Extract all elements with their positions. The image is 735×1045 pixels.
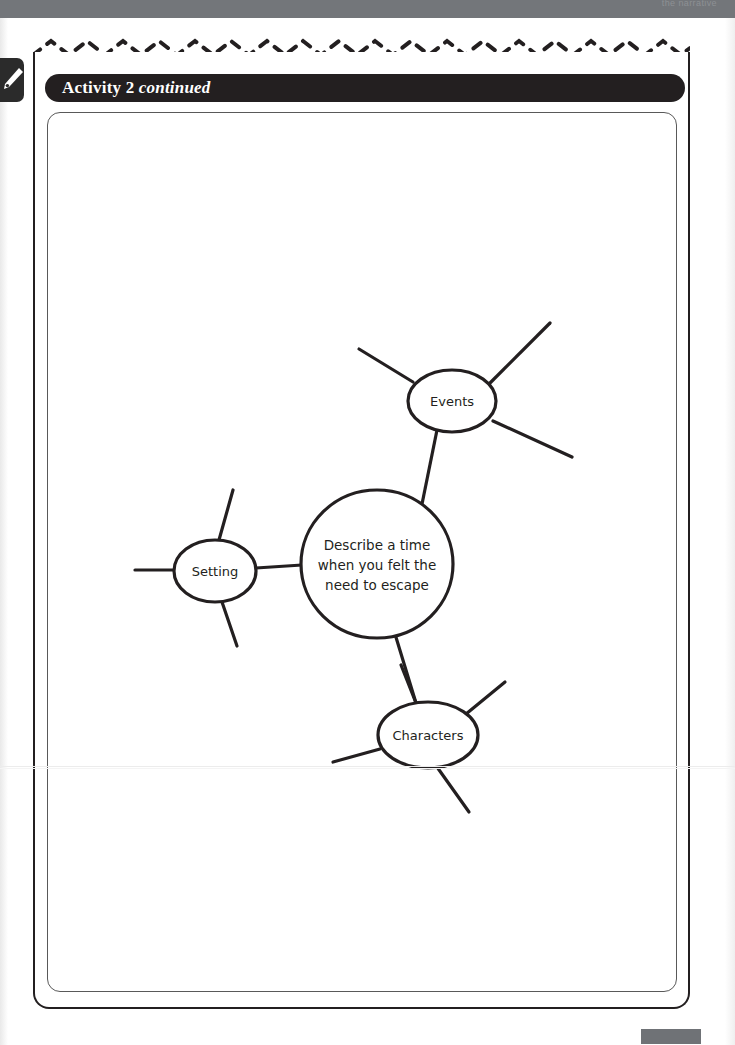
page-footer-marker (641, 1029, 701, 1044)
characters-node-label: Characters (393, 728, 464, 743)
mind-map-diagram: Describe a time when you felt the need t… (47, 112, 677, 992)
activity-title: Activity 2 continued (45, 78, 211, 98)
branch-characters-1 (401, 665, 416, 703)
mind-map-node-characters[interactable]: Characters (378, 702, 478, 768)
page-edge-shadow-left (0, 18, 8, 1045)
branch-events-1 (359, 349, 413, 382)
branch-setting-1 (219, 490, 233, 540)
center-node-line-3: need to escape (325, 577, 429, 593)
branch-events-2 (489, 323, 550, 384)
connector-center-events (421, 430, 437, 509)
activity-title-italic: continued (139, 78, 211, 97)
setting-node-label: Setting (192, 564, 239, 579)
page-edge-shadow-right (725, 18, 735, 1045)
mind-map-center-node[interactable]: Describe a time when you felt the need t… (301, 490, 453, 638)
connector-center-setting (256, 565, 302, 568)
branch-characters-3 (333, 749, 380, 762)
center-node-line-1: Describe a time (324, 537, 431, 553)
activity-title-main: Activity 2 (62, 78, 134, 97)
worksheet-page: the narrative Activity 2 continued (0, 0, 735, 1045)
branch-events-3 (493, 421, 572, 457)
activity-banner: Activity 2 continued (45, 74, 685, 102)
pencil-icon (2, 67, 24, 93)
running-header-text: the narrative (662, 0, 717, 8)
mind-map-node-setting[interactable]: Setting (174, 540, 256, 602)
events-node-label: Events (430, 394, 474, 409)
page-top-band: the narrative (0, 0, 735, 18)
scan-artifact-line-secondary (0, 768, 735, 769)
branch-characters-4 (437, 767, 469, 812)
scan-artifact-line (0, 766, 735, 767)
branch-characters-2 (466, 682, 505, 714)
center-node-line-2: when you felt the (318, 557, 436, 573)
branch-setting-3 (222, 602, 237, 646)
pencil-badge (0, 58, 24, 102)
mind-map-node-events[interactable]: Events (408, 370, 496, 432)
